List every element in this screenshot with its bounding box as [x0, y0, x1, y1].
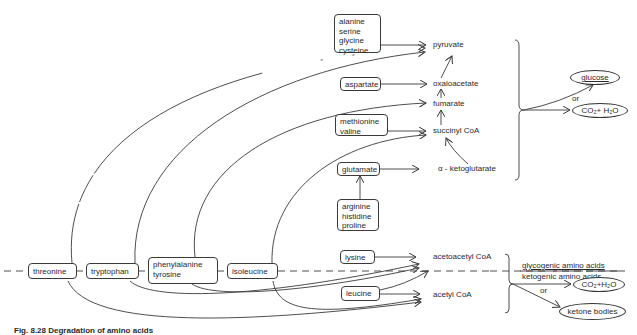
- label-alanine: alanine: [339, 17, 376, 27]
- box-lysine: lysine: [340, 250, 375, 264]
- label-threonine: threonine: [33, 266, 72, 277]
- box-arginine-histidine-proline: arginine histidine proline: [337, 199, 379, 231]
- label-or-top: or: [572, 94, 579, 104]
- box-isoleucine: isoleucine: [227, 263, 278, 279]
- box-methionine-valine: methionine valine: [335, 114, 388, 136]
- label-co2-h2o-bottom: CO₂+H₂O: [582, 280, 617, 289]
- label-glutamate: glutamate: [342, 165, 375, 175]
- figure-caption: Fig. 8.28 Degradation of amino acids: [14, 326, 153, 335]
- label-lysine: lysine: [345, 253, 370, 263]
- oval-ketone-bodies: ketone bodies: [559, 303, 626, 320]
- label-co2-h2o-top: CO₂+ H₂O: [581, 106, 618, 115]
- label-proline: proline: [342, 221, 374, 231]
- label-tyrosine: tyrosine: [153, 270, 213, 280]
- label-alpha-ketoglutarate: α - ketoglutarate: [438, 164, 496, 174]
- label-ketone-bodies: ketone bodies: [568, 307, 618, 316]
- label-oxaloacetate: oxaloacetate: [433, 79, 478, 89]
- label-glucose: glucose: [581, 73, 609, 82]
- box-threonine: threonine: [28, 263, 77, 279]
- oval-glucose: glucose: [570, 70, 620, 85]
- label-isoleucine: isoleucine: [232, 266, 273, 277]
- label-glycogenic-amino-acids: glycogenic amino acids: [522, 261, 605, 271]
- label-glycine: glycine: [339, 36, 376, 46]
- label-or-bottom: or: [540, 286, 547, 296]
- label-phenylalanine: phenylalanine: [153, 260, 213, 270]
- oval-co2-h2o-top: CO₂+ H₂O: [572, 103, 628, 118]
- label-serine: serine: [339, 27, 376, 37]
- label-valine: valine: [340, 127, 383, 137]
- label-acetyl-coa: acetyl CoA: [433, 290, 472, 300]
- label-cysteine: cysteine: [339, 46, 376, 56]
- label-arginine: arginine: [342, 202, 374, 212]
- label-aspartate: aspartate: [345, 80, 376, 90]
- box-alanine-serine-glycine-cysteine: alanine serine glycine cysteine: [334, 14, 381, 53]
- label-fumarate: fumarate: [433, 99, 465, 109]
- box-phenylalanine-tyrosine: phenylalanine tyrosine: [148, 257, 218, 284]
- label-leucine: leucine: [346, 289, 375, 299]
- label-tryptophan: tryptophan: [91, 266, 134, 277]
- label-histidine: histidine: [342, 212, 374, 222]
- box-glutamate: glutamate: [337, 162, 380, 176]
- label-pyruvate: pyruvate: [433, 40, 464, 50]
- label-succinyl-coa: succinyl CoA: [433, 126, 479, 136]
- label-acetoacetyl-coa: acetoacetyl CoA: [433, 252, 491, 262]
- box-leucine: leucine: [341, 286, 380, 301]
- box-aspartate: aspartate: [340, 77, 381, 91]
- label-methionine: methionine: [340, 117, 383, 127]
- box-tryptophan: tryptophan: [86, 263, 139, 279]
- oval-co2-h2o-bottom: CO₂+H₂O: [573, 277, 625, 292]
